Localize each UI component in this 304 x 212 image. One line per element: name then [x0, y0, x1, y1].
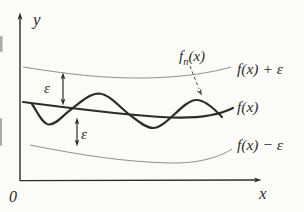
f-plus-epsilon-label: f(x) + ε [237, 60, 284, 78]
epsilon-upper-label: ε [44, 80, 50, 96]
scan-artifact [0, 36, 3, 52]
x-axis [20, 180, 257, 181]
scan-artifact [0, 118, 2, 146]
fn-label: fn(x) [179, 48, 205, 67]
uniform-convergence-figure: y x 0 ε ε fn(x) f(x) + ε f(x) f(x) − ε [0, 0, 304, 212]
fn-label-args: (x) [188, 48, 205, 65]
y-axis-label: y [31, 10, 41, 29]
origin-label: 0 [9, 188, 17, 205]
x-axis-label: x [258, 184, 267, 203]
f-label: f(x) [237, 98, 259, 116]
figure-canvas: y x 0 ε ε fn(x) f(x) + ε f(x) f(x) − ε [0, 0, 304, 212]
f-minus-epsilon-label: f(x) − ε [237, 136, 284, 154]
epsilon-lower-label: ε [81, 126, 87, 142]
